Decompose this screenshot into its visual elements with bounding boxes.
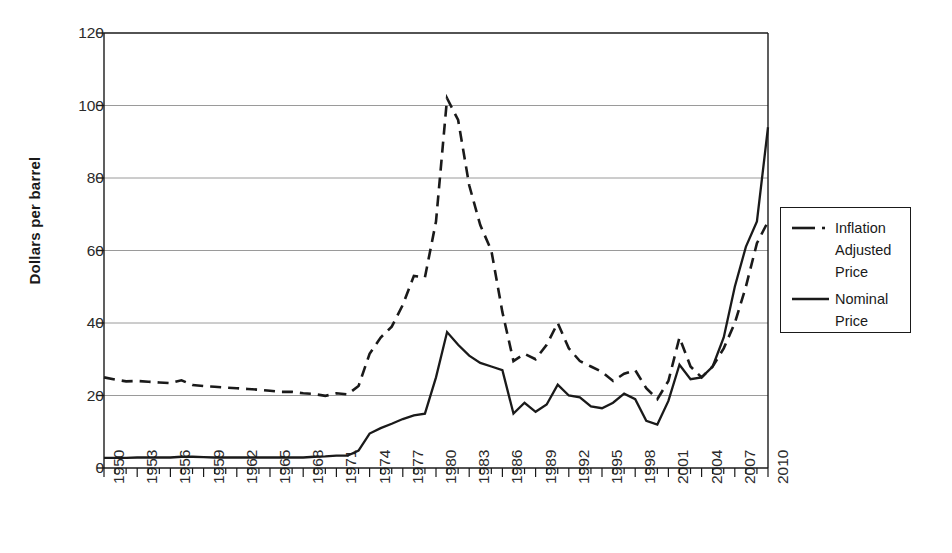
legend: Inflation Adjusted Price Nominal Price	[780, 207, 911, 333]
series-line-inflation-adjusted-price	[104, 98, 768, 399]
chart-figure: Dollars per barrel 020406080100120 19501…	[0, 0, 952, 553]
legend-label-inflation-adjusted-price: Inflation Adjusted Price	[835, 217, 891, 283]
solid-line-icon	[789, 288, 835, 310]
legend-label-nominal-price: Nominal Price	[835, 288, 888, 332]
legend-entry-nominal-price: Nominal Price	[789, 288, 888, 332]
axis-ticks	[97, 33, 768, 477]
series-line-nominal-price	[104, 127, 768, 458]
legend-entry-inflation-adjusted-price: Inflation Adjusted Price	[789, 217, 891, 283]
dashed-line-icon	[789, 217, 835, 239]
